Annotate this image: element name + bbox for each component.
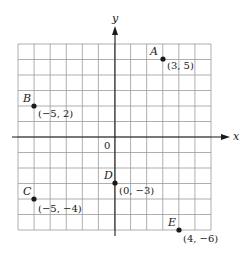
point-coordinates: (3, 5) bbox=[167, 60, 194, 71]
point-coordinates: (0, −3) bbox=[119, 185, 154, 196]
point-dot bbox=[112, 180, 117, 185]
x-axis-arrow-icon bbox=[221, 134, 230, 140]
point-name: C bbox=[23, 185, 32, 198]
point-C: C (−5, −4) bbox=[23, 185, 82, 214]
point-name: D bbox=[103, 169, 113, 182]
point-name: A bbox=[149, 45, 158, 58]
point-dot bbox=[176, 227, 181, 232]
point-coordinates: (−5, −4) bbox=[38, 203, 82, 214]
point-dot bbox=[31, 196, 36, 201]
x-axis-label: x bbox=[233, 130, 240, 143]
point-dot bbox=[160, 56, 165, 61]
point-coordinates: (−5, 2) bbox=[38, 108, 73, 119]
y-axis-label: y bbox=[111, 12, 119, 25]
point-B: B (−5, 2) bbox=[22, 92, 73, 119]
point-name: B bbox=[22, 92, 31, 105]
point-A: A (3, 5) bbox=[149, 45, 194, 71]
point-name: E bbox=[167, 216, 176, 229]
y-axis-arrow-icon bbox=[112, 26, 118, 35]
point-dot bbox=[31, 103, 36, 108]
point-coordinates: (4, −6) bbox=[183, 233, 218, 244]
origin-label: 0 bbox=[104, 140, 110, 151]
coordinate-plane: x y 0 A (3, 5) B (−5, 2) C (−5, −4) D (0… bbox=[0, 0, 249, 254]
